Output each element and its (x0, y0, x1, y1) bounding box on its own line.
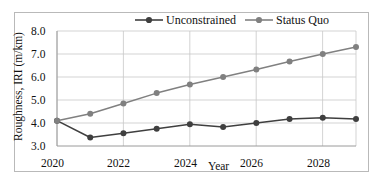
data-point (87, 111, 93, 117)
gridlines (57, 31, 356, 146)
axis-lines (57, 31, 356, 146)
data-point (353, 44, 359, 50)
chart-figure: Roughness, IRI (m/km) 8.0 7.0 6.0 5.0 4.… (0, 0, 384, 190)
y-tick-label-6: 6.0 (31, 71, 45, 83)
x-tick-label-2026: 2026 (240, 157, 263, 169)
data-point (220, 74, 226, 80)
data-point (287, 59, 293, 65)
data-point (353, 116, 359, 122)
legend-marker-status-quo (245, 17, 273, 23)
data-point (320, 51, 326, 57)
x-tick-label-2022: 2022 (107, 157, 130, 169)
series-line (57, 118, 356, 138)
x-tick-label-2028: 2028 (307, 157, 330, 169)
legend-label-status-quo: Status Quo (276, 13, 329, 28)
data-point (120, 130, 126, 136)
data-point (120, 100, 126, 106)
data-point (154, 126, 160, 132)
series-unconstrained (54, 115, 359, 141)
x-axis-title: Year (208, 160, 229, 172)
x-tick-label-2024: 2024 (174, 157, 197, 169)
data-point (287, 116, 293, 122)
data-point (253, 66, 259, 72)
legend-label-unconstrained: Unconstrained (166, 13, 236, 28)
y-tick-label-7: 7.0 (31, 48, 45, 60)
data-point (87, 134, 93, 140)
series-status-quo (54, 44, 359, 124)
data-point (187, 82, 193, 88)
data-point (154, 90, 160, 96)
data-point (253, 120, 259, 126)
y-tick-label-3: 3.0 (31, 140, 45, 152)
legend-marker-unconstrained (135, 17, 163, 23)
y-tick-label-5: 5.0 (31, 94, 45, 106)
y-axis-title: Roughness, IRI (m/km) (12, 32, 24, 141)
series-line (57, 47, 356, 121)
x-tick-label-2020: 2020 (41, 157, 64, 169)
data-point (54, 118, 60, 124)
data-point (220, 124, 226, 130)
data-point (187, 121, 193, 127)
data-point (320, 115, 326, 121)
y-tick-label-4: 4.0 (31, 117, 45, 129)
series-layer (54, 44, 359, 140)
